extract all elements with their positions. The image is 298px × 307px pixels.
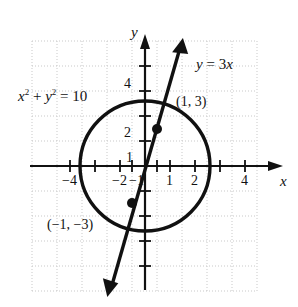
y-axis — [139, 34, 151, 290]
y-axis-label: y — [131, 25, 138, 40]
circle-eq-value: = 10 — [56, 88, 87, 104]
x-tick-label-neg2: −2 — [112, 174, 127, 188]
intersection-point-upper — [152, 124, 162, 134]
point-label-upper: (1, 3) — [176, 95, 206, 109]
x-tick-label-neg1: −1 — [129, 174, 144, 188]
x-tick-label-pos4: 4 — [241, 174, 248, 188]
y-tick-label-2: 2 — [124, 126, 131, 140]
y-tick-label-4: 4 — [124, 77, 131, 91]
x-axis — [30, 160, 283, 172]
line-eq-equals-three: = 3 — [203, 56, 226, 72]
intersection-point-lower — [127, 198, 137, 208]
line-eq-x: x — [226, 56, 233, 72]
circle-eq-x: x — [18, 88, 25, 104]
x-tick-label-pos2: 2 — [191, 174, 198, 188]
line-eq-y: y — [196, 56, 203, 72]
circle-eq-plus: + — [29, 88, 45, 104]
line-equation-label: y = 3x — [196, 57, 233, 72]
x-tick-label-neg4: −4 — [62, 174, 77, 188]
x-axis-label: x — [280, 174, 287, 189]
point-label-lower: (−1, −3) — [47, 218, 93, 232]
circle-eq-y: y — [45, 88, 52, 104]
circle-equation-label: x2 + y2 = 10 — [18, 88, 87, 104]
x-tick-label-pos1: 1 — [166, 174, 173, 188]
y-tick-label-1: 1 — [126, 151, 133, 165]
graph-figure: y x 4 2 1 −4 −2 −1 1 2 4 x2 + y2 = 10 y … — [0, 0, 298, 307]
coordinate-plane-svg — [0, 0, 298, 307]
